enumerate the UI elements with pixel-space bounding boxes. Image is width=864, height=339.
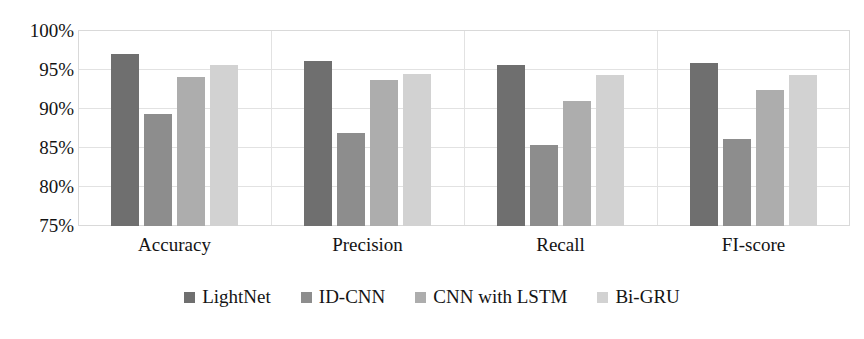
bar-lightnet-precision xyxy=(304,61,332,226)
legend-swatch-icon xyxy=(415,292,426,303)
legend-label: CNN with LSTM xyxy=(433,286,567,308)
y-tick-label: 90% xyxy=(4,99,74,118)
bar-id-cnn-fi-score xyxy=(723,139,751,226)
bar-lightnet-recall xyxy=(497,65,525,226)
y-tick-label: 80% xyxy=(4,177,74,196)
category-label-fi-score: FI-score xyxy=(657,234,850,256)
legend-item-cnn-with-lstm: CNN with LSTM xyxy=(415,286,567,308)
y-tick-label: 95% xyxy=(4,60,74,79)
bar-cnn-with-lstm-recall xyxy=(563,101,591,226)
legend-item-id-cnn: ID-CNN xyxy=(301,286,386,308)
category-label-accuracy: Accuracy xyxy=(78,234,271,256)
category-label-precision: Precision xyxy=(271,234,464,256)
legend-swatch-icon xyxy=(301,292,312,303)
bar-group-fi-score xyxy=(657,30,850,226)
bar-chart: 100% 95% 90% 85% 80% 75% xyxy=(0,0,864,339)
x-axis-categories: Accuracy Precision Recall FI-score xyxy=(78,234,850,256)
legend-swatch-icon xyxy=(597,292,608,303)
bar-groups xyxy=(78,30,850,226)
legend-label: Bi-GRU xyxy=(615,286,679,308)
y-tick-label: 85% xyxy=(4,138,74,157)
bar-lightnet-accuracy xyxy=(111,54,139,226)
legend-item-lightnet: LightNet xyxy=(184,286,271,308)
legend-swatch-icon xyxy=(184,292,195,303)
bar-cnn-with-lstm-fi-score xyxy=(756,90,784,226)
bar-bi-gru-recall xyxy=(596,75,624,226)
bar-bi-gru-fi-score xyxy=(789,75,817,226)
bar-bi-gru-precision xyxy=(403,74,431,226)
bar-lightnet-fi-score xyxy=(690,63,718,226)
legend: LightNet ID-CNN CNN with LSTM Bi-GRU xyxy=(0,286,864,308)
legend-item-bi-gru: Bi-GRU xyxy=(597,286,679,308)
y-tick-label: 75% xyxy=(4,216,74,235)
legend-label: ID-CNN xyxy=(319,286,386,308)
bar-cnn-with-lstm-accuracy xyxy=(177,77,205,226)
bar-group-accuracy xyxy=(78,30,271,226)
bar-group-precision xyxy=(271,30,464,226)
bar-bi-gru-accuracy xyxy=(210,65,238,227)
bar-id-cnn-accuracy xyxy=(144,114,172,226)
bar-id-cnn-recall xyxy=(530,145,558,226)
category-label-recall: Recall xyxy=(464,234,657,256)
bar-id-cnn-precision xyxy=(337,133,365,226)
bar-group-recall xyxy=(464,30,657,226)
y-tick-label: 100% xyxy=(4,21,74,40)
bar-cnn-with-lstm-precision xyxy=(370,80,398,226)
legend-label: LightNet xyxy=(202,286,271,308)
